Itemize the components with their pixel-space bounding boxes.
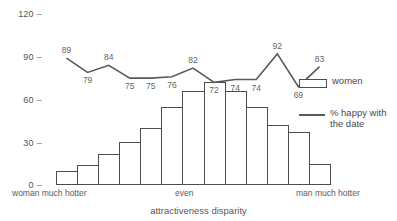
x-anchor-left: woman much hotter <box>12 188 87 198</box>
legend-label-happy-line2: the date <box>330 119 387 130</box>
bar <box>225 91 247 185</box>
y-tick-30-dash: – <box>37 138 42 148</box>
bar-swatch-icon <box>299 79 327 88</box>
y-tick-30-value: 30 <box>23 138 33 148</box>
y-tick-30: 30– <box>8 138 42 148</box>
bar-series-women <box>56 14 330 185</box>
plot-area: 89798475757682727474926983 <box>56 14 330 185</box>
y-tick-90-value: 90 <box>23 52 33 62</box>
line-point-label: 84 <box>104 52 113 62</box>
line-point-label: 83 <box>315 54 324 64</box>
y-tick-60: 60– <box>8 95 42 105</box>
line-point-label: 72 <box>209 85 218 95</box>
y-tick-120: 120– <box>8 9 42 19</box>
line-point-label: 82 <box>188 55 197 65</box>
legend-entry-women: women <box>299 76 397 88</box>
chart-container: 120– 90– 60– 30– 0– 89798475757682727474… <box>0 0 397 221</box>
line-point-label: 79 <box>83 75 92 85</box>
bar <box>56 171 78 185</box>
y-tick-120-value: 120 <box>18 9 34 19</box>
x-anchor-center: even <box>175 188 193 198</box>
bar <box>246 107 268 185</box>
bar <box>204 82 226 185</box>
y-tick-60-value: 60 <box>23 95 33 105</box>
x-anchor-right: man much hotter <box>296 188 360 198</box>
line-point-label: 75 <box>146 81 155 91</box>
line-point-label: 89 <box>62 45 71 55</box>
line-point-label: 75 <box>125 81 134 91</box>
line-point-label: 76 <box>167 80 176 90</box>
line-point-label: 92 <box>273 41 282 51</box>
bar <box>77 165 99 185</box>
legend-entry-happy: % happy with the date <box>299 108 397 130</box>
bar <box>98 154 120 185</box>
legend-label-women: women <box>332 76 363 87</box>
y-tick-120-dash: – <box>37 9 42 19</box>
bar <box>267 125 289 185</box>
chart-legend: women % happy with the date <box>299 76 397 150</box>
x-axis-title: attractiveness disparity <box>0 205 397 216</box>
line-point-label: 74 <box>230 83 239 93</box>
y-tick-60-dash: – <box>37 95 42 105</box>
line-point-label: 74 <box>251 83 260 93</box>
bar <box>140 128 162 185</box>
x-axis-line <box>56 184 330 185</box>
legend-label-happy: % happy with the date <box>330 108 387 130</box>
bar <box>309 164 331 185</box>
y-tick-90-dash: – <box>37 52 42 62</box>
line-swatch-icon <box>299 114 325 116</box>
bar <box>161 107 183 185</box>
bar <box>119 142 141 185</box>
bar <box>182 91 204 185</box>
y-tick-90: 90– <box>8 52 42 62</box>
